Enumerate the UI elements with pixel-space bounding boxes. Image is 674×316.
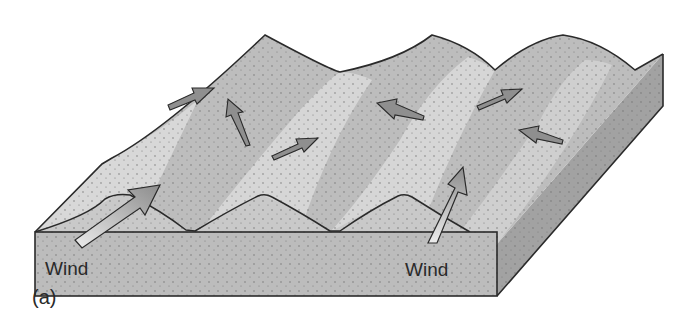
panel-label: (a) — [32, 286, 56, 309]
wind-label-left: Wind — [45, 258, 88, 279]
dune-diagram: Wind Wind — [0, 0, 674, 316]
wind-label-right: Wind — [405, 259, 448, 280]
